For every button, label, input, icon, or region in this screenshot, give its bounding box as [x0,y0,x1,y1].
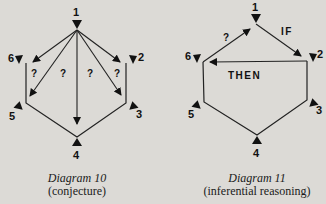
question-mark: ? [87,68,93,79]
then-arrow [210,61,307,62]
node-3-label: 3 [136,108,142,120]
vertex-markers [12,20,140,146]
if-label: IF [281,26,293,37]
diagram-11: 1 2 3 4 5 6 ? IF THEN [185,1,323,159]
node-3-label: 3 [316,104,322,116]
if-arrow [256,24,301,56]
vertex-6-marker [193,54,201,63]
question-mark: ? [31,68,37,79]
then-label: THEN [228,70,261,81]
node-5-label: 5 [188,108,194,120]
vertex-4-marker [252,136,262,144]
conjecture-arrows [30,30,121,124]
vertex-2-marker [309,53,317,62]
hexagon-outline [26,63,126,137]
vertex-2-marker [129,55,137,64]
node-4-label: 4 [253,147,260,159]
diagram-10-subtitle: (conjecture) [48,184,106,198]
vertex-6-marker [15,55,23,64]
node-5-label: 5 [9,110,15,122]
vertex-4-marker [72,138,82,146]
node-1-label: 1 [252,1,258,13]
question-mark: ? [223,32,229,43]
node-6-label: 6 [8,52,14,64]
diagram-10-caption: Diagram 10 (conjecture) [22,172,132,198]
node-2-label: 2 [317,48,323,60]
node-6-label: 6 [185,50,191,62]
node-4-label: 4 [73,149,80,161]
node-1-label: 1 [73,6,79,18]
node-2-label: 2 [138,51,144,63]
diagram-11-caption: Diagram 11 (inferential reasoning) [188,172,326,198]
diagram-10: 1 2 3 4 5 6 ? ? ? ? [8,6,144,161]
vertex-1-marker [72,20,82,29]
diagram-11-subtitle: (inferential reasoning) [204,184,311,198]
question-mark: ? [114,68,120,79]
question-mark: ? [60,68,66,79]
vertex-1-marker [251,14,261,23]
